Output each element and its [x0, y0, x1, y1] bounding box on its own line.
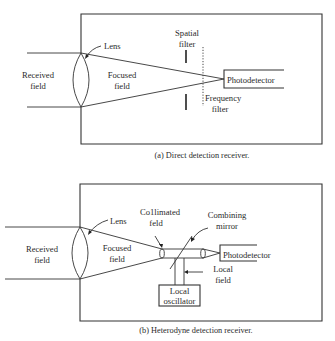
receiver-diagrams: Received field Lens Focused field Spatia…	[0, 0, 335, 341]
direct-detection-diagram: Received field Lens Focused field Spatia…	[22, 14, 322, 160]
label-local: Local	[213, 264, 233, 274]
label-focused-field: field	[114, 81, 130, 91]
label-combining: Combining	[208, 210, 247, 220]
heterodyne-detection-diagram: Received field Lens Focused field Co1lim…	[5, 184, 322, 335]
label-local-osc: Local	[170, 286, 190, 296]
label-collimated: Co1limated	[140, 207, 181, 217]
lens-icon	[73, 53, 89, 107]
label-received-field: field	[30, 81, 46, 91]
label-oscillator: oscillator	[164, 296, 196, 306]
collimating-lens-icon	[160, 249, 165, 258]
label-focused: Focused	[103, 243, 132, 253]
lens-pointer	[89, 220, 108, 233]
mirror-pointer	[192, 228, 208, 240]
label-lens: Lens	[110, 216, 127, 226]
label-spatial-filter: filter	[179, 39, 196, 49]
label-frequency-filter: filter	[212, 104, 229, 114]
local-field-arrowhead-icon	[184, 270, 188, 274]
label-photodetector: Photodetector	[227, 75, 275, 85]
collimated-arrowhead-icon	[159, 244, 163, 248]
label-focused-field: field	[109, 254, 125, 264]
focusing-lens-icon	[201, 249, 206, 258]
combining-mirror	[170, 236, 192, 269]
label-received: Received	[22, 70, 55, 80]
label-collimated-field: feld	[149, 218, 163, 228]
label-photodetector: Photodetector	[223, 250, 271, 260]
label-local-field: field	[215, 275, 231, 285]
label-combining-mirror: mirror	[216, 221, 238, 231]
caption-b: (b) Heterodyne detection receiver.	[139, 326, 252, 335]
label-lens: Lens	[104, 41, 121, 51]
caption-a: (a) Direct detection receiver.	[155, 151, 250, 160]
label-received-field: field	[34, 255, 50, 265]
lens-icon	[72, 227, 88, 279]
label-focused: Focused	[108, 70, 137, 80]
label-received: Received	[26, 244, 59, 254]
label-frequency: Frequency	[205, 93, 242, 103]
label-spatial: Spatial	[175, 28, 199, 38]
